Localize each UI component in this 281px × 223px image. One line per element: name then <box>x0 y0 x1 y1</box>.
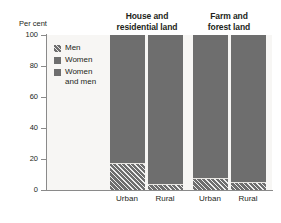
group-header-line: forest land <box>186 22 272 33</box>
y-tick-label-20: 20 <box>16 155 38 163</box>
bar-segment-men <box>110 163 145 190</box>
group-header-line: House and <box>101 11 193 22</box>
legend-swatch-icon <box>54 45 61 52</box>
y-tick-label-80: 80 <box>16 62 38 70</box>
bar-rural-farm <box>231 35 266 190</box>
x-axis-label-rural-house: Rural <box>143 194 187 204</box>
bar-segment-women-and-men <box>110 35 145 163</box>
bar-segment-men <box>231 182 266 190</box>
bar-segment-women-and-men <box>193 35 228 178</box>
legend-item-women-and-men: Women and men <box>54 67 96 86</box>
legend-label: Women <box>65 55 92 65</box>
bar-segment-men <box>193 178 228 190</box>
legend-label: Men <box>65 43 81 53</box>
chart-container: House and residential land Farm and fore… <box>0 0 281 223</box>
bar-segment-women-and-men <box>231 35 266 182</box>
x-axis-label-rural-farm: Rural <box>226 194 270 204</box>
y-axis-line <box>46 34 47 191</box>
bar-rural-house <box>148 35 183 190</box>
legend-item-women: Women <box>54 55 96 65</box>
legend-swatch-icon <box>54 69 61 76</box>
bar-segment-women-and-men <box>148 35 183 184</box>
group-header-house-residential-land: House and residential land <box>101 11 193 32</box>
y-tick-label-100: 100 <box>16 31 38 39</box>
legend-label: Women and men <box>65 67 96 86</box>
y-tick-label-60: 60 <box>16 93 38 101</box>
y-tick-mark <box>41 190 46 191</box>
x-axis-line <box>46 190 273 191</box>
y-tick-label-40: 40 <box>16 124 38 132</box>
y-axis-title: Per cent <box>19 19 47 28</box>
group-header-farm-forest-land: Farm and forest land <box>186 11 272 32</box>
y-tick-mark <box>41 66 46 67</box>
y-tick-label-0: 0 <box>16 186 38 194</box>
group-header-line: residential land <box>101 22 193 33</box>
legend-swatch-icon <box>54 57 61 64</box>
y-tick-mark <box>41 35 46 36</box>
legend: Men Women Women and men <box>54 43 96 89</box>
y-tick-mark <box>41 159 46 160</box>
bar-urban-farm <box>193 35 228 190</box>
bar-urban-house <box>110 35 145 190</box>
group-header-line: Farm and <box>186 11 272 22</box>
legend-item-men: Men <box>54 43 96 53</box>
y-tick-mark <box>41 128 46 129</box>
y-tick-mark <box>41 97 46 98</box>
bar-segment-men <box>148 184 183 190</box>
